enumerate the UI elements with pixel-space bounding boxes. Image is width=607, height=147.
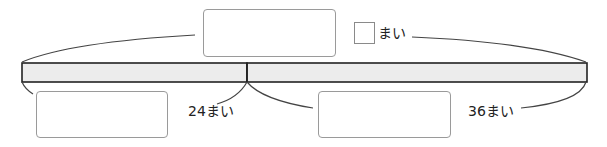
left-segment-answer-box[interactable] [36,91,168,138]
total-small-box[interactable] [354,22,375,44]
right-segment-value-label: 36まい [468,103,514,119]
total-unit-label: まい [378,25,406,41]
tape-bar-left-segment [22,63,247,82]
left-segment-value-label: 24まい [188,103,234,119]
bottom-brace-right-end-curve [521,82,586,108]
right-segment-answer-box[interactable] [318,91,451,138]
bottom-brace-left-end-curve [217,82,247,104]
bottom-brace-right-start-curve [247,82,313,108]
top-brace-left-curve [22,35,195,62]
tape-bar-right-segment [247,63,587,82]
total-answer-box[interactable] [203,9,336,57]
bottom-brace-left-start-curve [22,82,33,94]
top-brace-right-curve [412,37,586,62]
